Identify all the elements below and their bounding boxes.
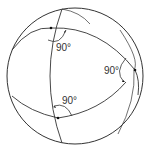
angle-arc-bottom	[54, 105, 72, 116]
angle-label-bottom: 90°	[62, 95, 77, 106]
angle-label-top: 90°	[56, 42, 71, 53]
angle-arc-right	[119, 58, 126, 82]
angle-label-right: 90°	[104, 65, 119, 76]
spherical-triangle-diagram: 90° 90° 90°	[0, 0, 151, 150]
vertex-right	[134, 69, 137, 72]
vertex-bottom	[57, 117, 60, 120]
great-circle-right	[118, 30, 135, 134]
sphere-outline	[7, 8, 143, 144]
great-circle-top	[12, 28, 139, 95]
great-circle-meridian-left	[50, 9, 62, 143]
vertex-top	[50, 27, 53, 30]
angle-arrow-bottom	[53, 106, 56, 108]
great-circle-upper-arc	[62, 9, 90, 24]
angle-arc-top	[48, 30, 66, 42]
